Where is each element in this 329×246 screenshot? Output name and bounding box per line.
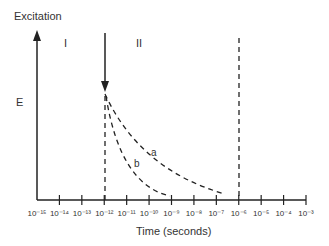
x-tick-label: 10⁻⁸ [186,209,202,218]
energy-label: E [16,96,23,108]
x-tick-label: 10⁻³ [298,209,314,218]
decay-curve-a [105,94,225,194]
y-axis-label: Excitation [14,10,62,22]
x-axis-tick-labels: 10⁻¹⁵10⁻¹⁴10⁻¹³10⁻¹²10⁻¹¹10⁻¹⁰10⁻⁹10⁻⁸10… [28,209,315,218]
x-tick-label: 10⁻¹⁵ [28,209,47,218]
x-tick-label: 10⁻¹² [95,209,114,218]
x-tick-label: 10⁻¹¹ [118,209,137,218]
region-ii-label: II [136,37,142,49]
excitation-arrow-icon [101,81,109,92]
x-tick-label: 10⁻¹³ [73,209,92,218]
x-tick-label: 10⁻⁷ [208,209,224,218]
curve-a-label: a [151,147,157,158]
curve-b-label: b [134,158,140,169]
x-tick-label: 10⁻⁶ [231,209,247,218]
decay-curve-b [106,96,170,196]
x-tick-label: 10⁻⁵ [253,209,269,218]
x-axis-label: Time (seconds) [136,225,211,237]
region-i-label: I [64,37,67,49]
x-tick-label: 10⁻¹⁰ [140,209,159,218]
x-tick-label: 10⁻⁹ [163,209,179,218]
y-axis-arrow-icon [33,30,41,41]
excitation-decay-diagram: 10⁻¹⁵10⁻¹⁴10⁻¹³10⁻¹²10⁻¹¹10⁻¹⁰10⁻⁹10⁻⁸10… [0,0,329,246]
x-tick-label: 10⁻¹⁴ [50,209,70,218]
x-tick-label: 10⁻⁴ [275,209,292,218]
